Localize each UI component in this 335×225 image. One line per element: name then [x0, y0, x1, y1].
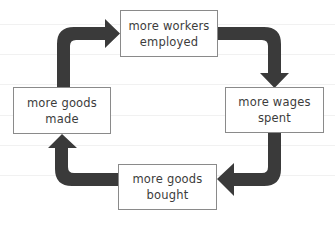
node-label-line2: bought	[147, 187, 189, 203]
arrow-bought-to-made-icon	[48, 134, 118, 186]
arrow-workers-to-wages-icon	[218, 27, 289, 88]
node-label-line2: spent	[258, 110, 291, 126]
node-more-goods-made: more goods made	[13, 87, 111, 134]
node-label-line2: employed	[140, 34, 199, 50]
arrow-wages-to-bought-icon	[217, 133, 281, 196]
node-label-line1: more workers	[128, 18, 209, 34]
node-label-line1: more goods	[27, 95, 97, 111]
node-more-wages-spent: more wages spent	[225, 87, 324, 133]
node-more-workers-employed: more workers employed	[120, 10, 218, 57]
node-more-goods-bought: more goods bought	[118, 164, 217, 210]
node-label-line1: more wages	[238, 94, 310, 110]
node-label-line2: made	[45, 111, 78, 127]
node-label-line1: more goods	[132, 171, 202, 187]
arrow-made-to-workers-icon	[57, 19, 120, 88]
